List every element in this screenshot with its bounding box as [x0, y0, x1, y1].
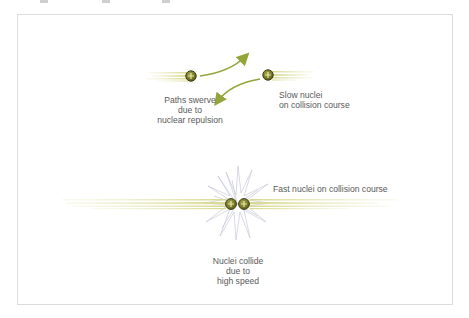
label-line: Paths swerve	[138, 95, 242, 105]
label-paths-swerve: Paths swerve due to nuclear repulsion	[138, 95, 242, 125]
label-line: high speed	[190, 276, 286, 286]
arrow-up-right	[200, 56, 246, 76]
fast-left-nucleus	[226, 199, 237, 210]
label-line: nuclear repulsion	[138, 115, 242, 125]
label-line: due to	[190, 266, 286, 276]
label-line: on collision course	[279, 100, 350, 110]
label-line: Nuclei collide	[190, 256, 286, 266]
label-line: Slow nuclei	[279, 90, 350, 100]
slow-left-nucleus	[186, 71, 196, 81]
slow-right-trail	[272, 71, 314, 81]
label-line: due to	[138, 105, 242, 115]
slow-left-trail	[146, 72, 188, 82]
label-nuclei-collide: Nuclei collide due to high speed	[190, 256, 286, 286]
fast-right-nucleus	[239, 199, 250, 210]
fast-right-trail	[250, 199, 398, 209]
label-slow-nuclei: Slow nuclei on collision course	[279, 90, 350, 110]
fast-left-trail	[62, 199, 226, 209]
label-fast-nuclei: Fast nuclei on collision course	[273, 184, 388, 194]
slow-right-nucleus	[263, 70, 273, 80]
